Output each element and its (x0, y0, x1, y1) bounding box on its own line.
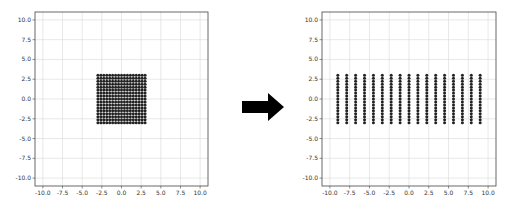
y-tick-label: 10.0 (305, 16, 319, 23)
x-tick-label: 10.0 (193, 189, 207, 196)
x-tick-label: -2.5 (96, 189, 108, 196)
y-tick-label: -2.5 (19, 115, 31, 122)
y-tick-label: -5.0 (306, 135, 318, 142)
y-tick-label: 2.5 (308, 75, 318, 82)
x-tick-label: 0.0 (117, 189, 127, 196)
x-tick-label: 7.5 (464, 189, 474, 196)
y-tick-label: -10.0 (302, 174, 318, 181)
plot-before: -10.0-7.5-5.0-2.50.02.55.07.510.0-10.0-7… (15, 12, 208, 196)
x-tick-label: -10.0 (322, 189, 338, 196)
scatter-points (96, 74, 146, 124)
y-tick-label: -2.5 (306, 115, 318, 122)
y-tick-label: 5.0 (308, 55, 318, 62)
y-tick-label: -7.5 (306, 154, 318, 161)
x-tick-label: -10.0 (35, 189, 51, 196)
x-tick-label: 0.0 (404, 189, 414, 196)
y-tick-label: 7.5 (308, 36, 318, 43)
x-tick-label: -2.5 (383, 189, 395, 196)
x-tick-label: 2.5 (136, 189, 146, 196)
x-axis-ticks: -10.0-7.5-5.0-2.50.02.55.07.510.0 (322, 186, 495, 196)
x-tick-label: -7.5 (57, 189, 69, 196)
y-tick-label: -5.0 (19, 135, 31, 142)
y-tick-label: -7.5 (19, 154, 31, 161)
x-tick-label: 7.5 (176, 189, 186, 196)
x-tick-label: 10.0 (481, 189, 495, 196)
arrow-right-icon (242, 93, 284, 121)
x-tick-label: -5.0 (364, 189, 376, 196)
x-tick-label: -7.5 (344, 189, 356, 196)
x-tick-label: -5.0 (76, 189, 88, 196)
x-tick-label: 5.0 (156, 189, 166, 196)
y-axis-ticks: -10.0-7.5-5.0-2.50.02.55.07.510.0 (302, 16, 322, 181)
y-axis-ticks: -10.0-7.5-5.0-2.50.02.55.07.510.0 (15, 16, 35, 181)
y-tick-label: 0.0 (308, 95, 318, 102)
x-tick-label: 5.0 (444, 189, 454, 196)
figure: -10.0-7.5-5.0-2.50.02.55.07.510.0-10.0-7… (0, 0, 515, 207)
y-tick-label: 2.5 (21, 75, 31, 82)
x-axis-ticks: -10.0-7.5-5.0-2.50.02.55.07.510.0 (35, 186, 207, 196)
y-tick-label: 7.5 (21, 36, 31, 43)
y-tick-label: -10.0 (15, 174, 31, 181)
y-tick-label: 0.0 (21, 95, 31, 102)
plot-after: -10.0-7.5-5.0-2.50.02.55.07.510.0-10.0-7… (302, 12, 496, 196)
x-tick-label: 2.5 (424, 189, 434, 196)
y-tick-label: 5.0 (21, 55, 31, 62)
y-tick-label: 10.0 (18, 16, 32, 23)
